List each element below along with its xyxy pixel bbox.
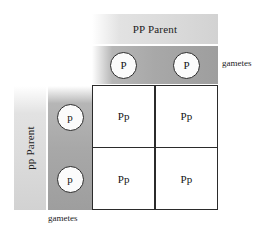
punnett-cell: Pp <box>93 86 154 147</box>
top-gametes-annotation: gametes <box>222 58 252 68</box>
left-gamete-allele-1: p <box>67 112 73 123</box>
left-parent-band: pp Parent <box>14 86 46 210</box>
punnett-cell: Pp <box>156 86 217 147</box>
left-gamete-band: p p <box>48 86 92 210</box>
left-parent-label: pp Parent <box>24 126 36 170</box>
left-gamete-circle-1: p <box>57 104 84 131</box>
punnett-cell-genotype: Pp <box>118 110 130 122</box>
left-gamete-circle-2: p <box>57 166 84 193</box>
punnett-square-figure: PP Parent P P pp Parent p p Pp Pp Pp <box>0 0 269 237</box>
top-parent-label: PP Parent <box>133 23 177 35</box>
top-gamete-circle-1: P <box>110 52 137 79</box>
left-gametes-annotation: gametes <box>48 213 78 223</box>
top-gamete-allele-1: P <box>120 60 126 71</box>
punnett-grid: Pp Pp Pp Pp <box>92 85 218 210</box>
top-gamete-circle-2: P <box>173 52 200 79</box>
top-gamete-allele-2: P <box>183 60 189 71</box>
punnett-cell: Pp <box>156 148 217 209</box>
punnett-cell-genotype: Pp <box>118 173 130 185</box>
punnett-cell-genotype: Pp <box>181 173 193 185</box>
punnett-cell-genotype: Pp <box>181 110 193 122</box>
top-parent-band: PP Parent <box>92 14 218 44</box>
punnett-cell: Pp <box>93 148 154 209</box>
top-gamete-band: P P <box>92 46 218 84</box>
left-gamete-allele-2: p <box>67 174 73 185</box>
